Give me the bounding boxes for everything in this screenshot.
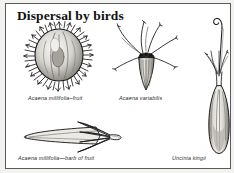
figure-plate: Dispersal by birds [0,0,234,173]
caption-acaena-millifolia-fruit: Acaena millifolia–fruit [28,95,82,101]
spiny-burr-fruit-icon [22,21,98,93]
hooked-utricle-icon [192,14,231,156]
barbed-spine-icon [22,118,126,156]
caption-acaena-variabilis: Acaena variabilis [119,95,162,101]
plate-frame: Dispersal by birds [5,3,231,169]
awned-seed-icon [110,20,182,94]
caption-uncinia-kingii: Uncinia kingii [172,155,206,161]
caption-acaena-millifolia-barb: Acaena millifolia—barb of fruit [18,155,94,161]
